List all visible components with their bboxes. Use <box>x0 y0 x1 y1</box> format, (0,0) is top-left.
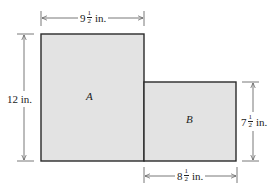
bottom-dimension-fraction: 1 2 <box>184 168 190 183</box>
left-dimension-label: 12 in. <box>7 91 32 107</box>
fraction-denominator: 2 <box>184 176 190 183</box>
top-dimension-unit: in. <box>95 12 106 24</box>
right-dimension-whole: 7 <box>241 116 247 128</box>
fraction-denominator: 2 <box>87 18 93 25</box>
composite-figure <box>0 0 279 192</box>
top-dimension-whole: 9 <box>80 12 86 24</box>
right-dimension-unit: in. <box>256 116 267 128</box>
bottom-dimension-whole: 8 <box>177 170 183 182</box>
region-label-a: A <box>86 90 93 102</box>
right-dimension-label: 7 1 2 in. <box>241 112 267 131</box>
bottom-dimension-unit: in. <box>192 170 203 182</box>
right-dimension-fraction: 1 2 <box>248 114 254 129</box>
top-dimension-label: 9 1 2 in. <box>78 10 108 25</box>
top-dimension-fraction: 1 2 <box>87 10 93 25</box>
fraction-denominator: 2 <box>248 122 254 129</box>
region-label-b: B <box>186 113 193 125</box>
left-dimension-text: 12 in. <box>7 93 32 105</box>
bottom-dimension-label: 8 1 2 in. <box>175 168 205 183</box>
